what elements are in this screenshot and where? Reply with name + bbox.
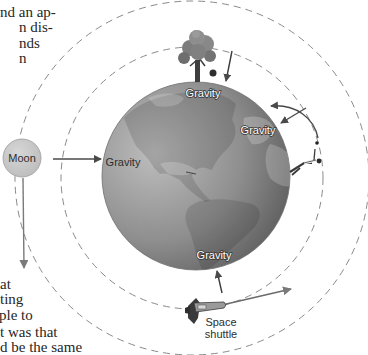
- shuttle-label-line2: shuttle: [205, 328, 237, 340]
- shuttle-label-line1: Space: [205, 316, 236, 328]
- moon-velocity-arrow-icon: [23, 178, 24, 268]
- shuttle-gravity-arrow-icon: [217, 271, 222, 293]
- person-throwing-ball-icon: [290, 149, 321, 175]
- textbook-figure-page: nd an ap- n dis- nds n at ting ple to t …: [0, 0, 368, 355]
- earth-globe: [102, 82, 292, 270]
- moon-body: Moon: [3, 139, 41, 177]
- moon-label: Moon: [8, 152, 36, 164]
- gravity-label-left: Gravity: [106, 156, 141, 168]
- ball-icon: [315, 141, 319, 145]
- gravity-label-top: Gravity: [186, 87, 221, 99]
- apple-gravity-arrow-icon: [226, 51, 232, 81]
- gravity-label-right: Gravity: [241, 124, 276, 136]
- ball-gravity-arrow-icon: [281, 108, 306, 123]
- gravity-diagram: Moon: [0, 0, 368, 355]
- apple-icon: [210, 70, 217, 77]
- shuttle-velocity-arrow-icon: [222, 289, 291, 305]
- gravity-label-bottom: Gravity: [197, 249, 232, 261]
